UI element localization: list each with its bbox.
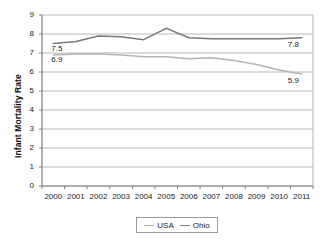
series-line-usa [53, 54, 301, 74]
y-tick-label: 3 [20, 125, 34, 133]
y-tick-label: 0 [20, 182, 34, 190]
y-tick-label: 8 [20, 30, 34, 38]
data-label-ohio-2000: 7.5 [51, 45, 62, 53]
legend-label-ohio: Ohio [193, 221, 210, 230]
y-tick-label: 2 [20, 144, 34, 152]
infant-mortality-line-chart: Infant Mortality Rate 0123456789 2000200… [0, 0, 330, 243]
data-label-ohio-2011: 7.8 [288, 41, 299, 49]
y-tick-label: 4 [20, 106, 34, 114]
legend-swatch-ohio-icon [180, 225, 190, 226]
series-lines [53, 28, 301, 74]
data-label-usa-2011: 5.9 [288, 77, 299, 85]
chart-legend: USA Ohio [136, 217, 218, 233]
y-tick-label: 5 [20, 87, 34, 95]
plot-area [0, 0, 330, 243]
y-tick-label: 9 [20, 11, 34, 19]
data-label-usa-2000: 6.9 [51, 56, 62, 64]
legend-swatch-usa-icon [144, 225, 154, 226]
y-tick-label: 7 [20, 49, 34, 57]
y-tick-label: 6 [20, 68, 34, 76]
legend-item-ohio[interactable]: Ohio [180, 221, 210, 230]
y-tick-label: 1 [20, 163, 34, 171]
legend-label-usa: USA [157, 221, 173, 230]
legend-item-usa[interactable]: USA [144, 221, 173, 230]
x-tick-label: 2011 [288, 192, 315, 201]
series-line-ohio [53, 28, 301, 43]
